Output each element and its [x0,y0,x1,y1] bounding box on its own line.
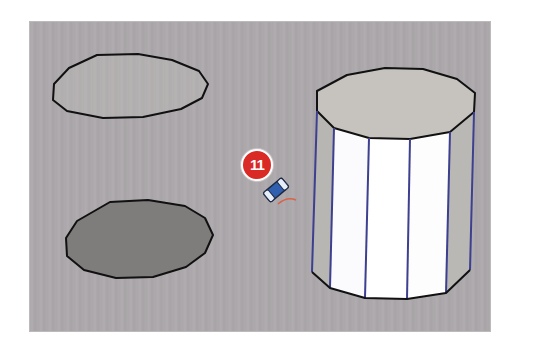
scene-canvas[interactable] [0,0,537,353]
eraser-trail-icon [278,199,296,204]
extruded-cylinder[interactable] [312,68,475,299]
step-callout-badge: 11 [241,149,273,181]
filled-polygon-circle[interactable] [66,200,213,278]
unfilled-polygon-circle[interactable] [53,54,208,118]
eraser-tool-cursor [263,178,289,203]
